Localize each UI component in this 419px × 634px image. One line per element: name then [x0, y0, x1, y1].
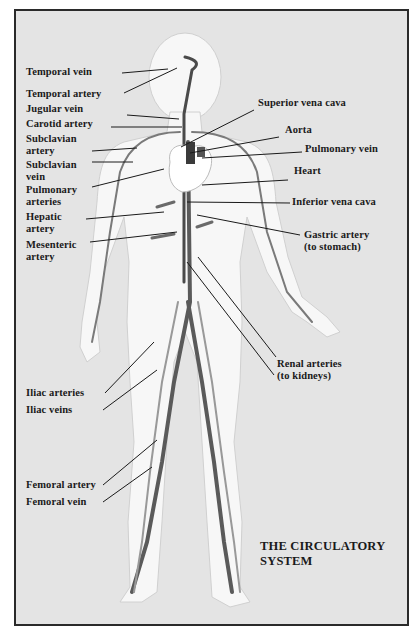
diagram-title: THE CIRCULATORYSYSTEM	[260, 539, 385, 569]
label-inferior-vena-cava: Inferior vena cava	[292, 196, 376, 208]
label-femoral-artery: Femoral artery	[26, 479, 96, 491]
label-renal-arteries: Renal arteries(to kidneys)	[277, 358, 342, 382]
label-mesenteric-artery: Mesentericartery	[26, 239, 77, 263]
label-pulmonary-arteries: Pulmonaryarteries	[26, 184, 77, 208]
label-temporal-vein: Temporal vein	[26, 66, 92, 78]
label-subclavian-artery: Subclavianartery	[26, 133, 77, 157]
label-femoral-vein: Femoral vein	[26, 496, 86, 508]
label-jugular-vein: Jugular vein	[26, 103, 83, 115]
label-hepatic-artery: Hepaticartery	[26, 211, 62, 235]
body-silhouette	[80, 33, 340, 607]
label-superior-vena-cava: Superior vena cava	[258, 97, 346, 109]
label-aorta: Aorta	[285, 124, 312, 136]
label-iliac-arteries: Iliac arteries	[26, 387, 84, 399]
label-temporal-artery: Temporal artery	[26, 88, 101, 100]
label-heart: Heart	[294, 165, 321, 177]
label-gastric-artery: Gastric artery(to stomach)	[304, 229, 369, 253]
label-carotid-artery: Carotid artery	[26, 118, 93, 130]
label-pulmonary-vein: Pulmonary vein	[305, 143, 378, 155]
label-subclavian-vein: Subclavianvein	[26, 159, 77, 183]
label-iliac-veins: Iliac veins	[26, 404, 72, 416]
diagram-frame: Temporal vein Temporal artery Jugular ve…	[14, 9, 409, 626]
